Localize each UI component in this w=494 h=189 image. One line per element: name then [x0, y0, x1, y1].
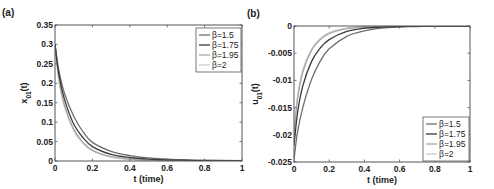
x-tick-label: 0.6 [394, 164, 406, 174]
series-line-beta-2 [294, 26, 470, 132]
x-tick-label: 0.4 [358, 164, 370, 174]
y-tick-label: 0.05 [36, 137, 53, 147]
x-tick-label: 0.8 [429, 164, 441, 174]
x-tick-label: 0.6 [161, 163, 173, 173]
x-axis-label: t (time) [367, 175, 397, 185]
y-tick-label: 0.2 [41, 78, 53, 88]
legend-label: β=1.75 [212, 40, 239, 50]
y-tick-label: -0.005 [268, 48, 292, 58]
panel-label: (b) [247, 8, 260, 19]
legend-label: β=1.95 [212, 50, 239, 60]
chart-panel-b: (b)00.20.40.60.81-0.025-0.02-0.015-0.01-… [247, 8, 473, 185]
chart-panel-a: (a)00.20.40.60.8100.050.10.150.20.250.30… [2, 7, 245, 184]
legend-label: β=1.95 [439, 139, 466, 149]
panel-label: (a) [2, 7, 14, 18]
x-axis-label: t (time) [134, 174, 164, 184]
legend-label: β=2 [212, 60, 227, 70]
y-tick-label: 0.3 [41, 39, 53, 49]
x-tick-label: 1 [240, 163, 245, 173]
y-axis-label: u01(t) [250, 83, 263, 105]
legend-label: β=1.75 [439, 129, 466, 139]
y-tick-label: 0.35 [36, 20, 53, 30]
legend-label: β=1.5 [439, 119, 461, 129]
legend-label: β=2 [439, 149, 454, 159]
y-tick-label: 0 [287, 21, 292, 31]
x-tick-label: 0.4 [124, 163, 136, 173]
x-tick-label: 0 [292, 164, 297, 174]
y-tick-label: -0.01 [273, 75, 293, 85]
x-tick-label: 1 [468, 164, 473, 174]
x-tick-label: 0 [53, 163, 58, 173]
legend: β=1.5β=1.75β=1.95β=2 [423, 117, 469, 161]
legend: β=1.5β=1.75β=1.95β=2 [196, 28, 241, 72]
y-axis-label: x01(t) [19, 82, 32, 103]
y-tick-label: -0.015 [268, 103, 292, 113]
legend-label: β=1.5 [212, 30, 234, 40]
x-tick-label: 0.2 [86, 163, 98, 173]
x-tick-label: 0.2 [323, 164, 335, 174]
y-tick-label: 0.1 [41, 117, 53, 127]
y-tick-label: 0 [48, 156, 53, 166]
figure: (a)00.20.40.60.8100.050.10.150.20.250.30… [0, 0, 494, 189]
y-tick-label: -0.025 [268, 157, 292, 167]
y-tick-label: -0.02 [273, 130, 293, 140]
x-tick-label: 0.8 [199, 163, 211, 173]
y-tick-label: 0.15 [36, 98, 53, 108]
y-tick-label: 0.25 [36, 59, 53, 69]
